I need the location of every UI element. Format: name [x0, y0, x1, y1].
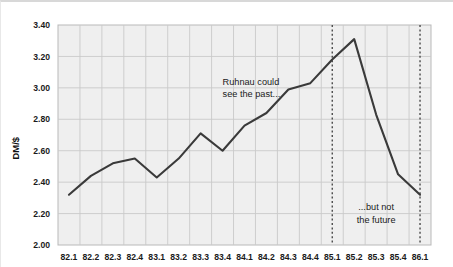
x-tick-label: 85.3 — [368, 252, 385, 262]
x-tick-label: 83.2 — [170, 252, 187, 262]
chart-annotation: ...but not — [358, 202, 394, 212]
x-tick-label: 82.4 — [126, 252, 143, 262]
x-tick-label: 85.1 — [324, 252, 341, 262]
x-tick-label: 85.2 — [346, 252, 363, 262]
y-tick-label: 2.60 — [33, 146, 50, 156]
chart-figure: 2.002.202.402.602.803.003.203.40 82.182.… — [0, 0, 453, 267]
x-tick-label: 84.2 — [258, 252, 275, 262]
x-tick-label: 84.1 — [236, 252, 253, 262]
y-tick-label: 2.80 — [33, 114, 50, 124]
line-chart: 2.002.202.402.602.803.003.203.40 82.182.… — [1, 2, 453, 267]
x-tick-label: 84.3 — [280, 252, 297, 262]
y-tick-label: 3.20 — [33, 52, 50, 62]
y-tick-label: 2.40 — [33, 177, 50, 187]
x-tick-label: 86.1 — [412, 252, 429, 262]
x-tick-labels: 82.182.282.382.483.183.283.383.484.184.2… — [61, 252, 429, 262]
y-tick-label: 2.20 — [33, 209, 50, 219]
y-tick-label: 3.40 — [33, 20, 50, 30]
x-tick-label: 84.4 — [302, 252, 319, 262]
x-tick-label: 82.1 — [61, 252, 78, 262]
x-tick-label: 82.2 — [83, 252, 100, 262]
chart-annotation: Ruhnau could — [223, 77, 280, 87]
x-tick-label: 82.3 — [104, 252, 121, 262]
y-tick-label: 3.00 — [33, 83, 50, 93]
x-tick-label: 85.4 — [390, 252, 407, 262]
y-tick-label: 2.00 — [33, 240, 50, 250]
chart-annotation: see the past... — [223, 89, 281, 99]
x-tick-label: 83.1 — [148, 252, 165, 262]
y-tick-labels: 2.002.202.402.602.803.003.203.40 — [33, 20, 50, 250]
x-tick-label: 83.4 — [214, 252, 231, 262]
y-axis-label: DM/$ — [10, 136, 21, 159]
x-tick-label: 83.3 — [192, 252, 209, 262]
chart-annotation: the future — [357, 215, 396, 225]
